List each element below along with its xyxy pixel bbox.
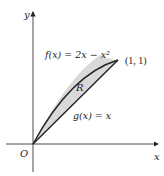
region-diagram: y x O f(x) = 2x − x² g(x) = x R (1, 1) (0, 0, 164, 176)
x-axis-label: x (154, 151, 160, 162)
curve-g (33, 60, 118, 144)
intersection-point-label: (1, 1) (125, 55, 147, 67)
y-axis-label: y (23, 9, 30, 20)
region-label: R (75, 82, 84, 93)
origin-label: O (20, 148, 28, 159)
curve-g-label: g(x) = x (73, 110, 112, 121)
curve-f-label: f(x) = 2x − x² (44, 49, 110, 60)
